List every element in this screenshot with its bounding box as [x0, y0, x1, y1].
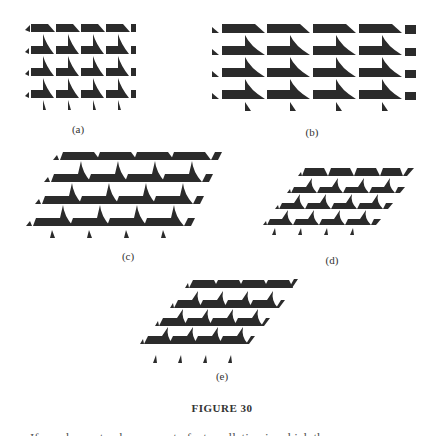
panel-c-label: (c)	[122, 250, 134, 262]
panel-d-label: (d)	[326, 254, 339, 266]
panel-a-pattern	[25, 24, 136, 110]
panel-c-pattern	[26, 152, 222, 238]
cut-off-body-text: If we choose to observe part of a tessel…	[30, 430, 430, 436]
panel-a-label: (a)	[72, 123, 84, 135]
panel-b-pattern	[212, 24, 416, 111]
figure-caption: FIGURE 30	[191, 402, 252, 414]
panel-b-label: (b)	[306, 126, 319, 138]
panel-e-pattern	[140, 279, 298, 363]
panel-e-label: (e)	[216, 370, 228, 382]
panel-d-pattern	[263, 168, 414, 235]
